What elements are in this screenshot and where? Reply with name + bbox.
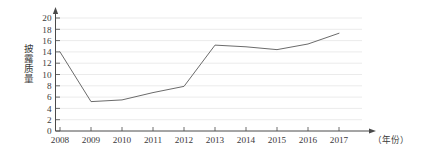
x-axis-tick-label: 2010 bbox=[113, 135, 132, 145]
y-axis-tick-label: 4 bbox=[47, 104, 52, 114]
y-axis-tick-label: 18 bbox=[42, 25, 52, 35]
x-axis-tick-label: 2012 bbox=[175, 135, 194, 145]
x-axis-tick-label: 2017 bbox=[330, 135, 349, 145]
gridlines bbox=[56, 18, 363, 120]
x-axis-tick-marks bbox=[60, 127, 339, 131]
x-axis-tick-label: 2008 bbox=[51, 135, 70, 145]
chart-axes bbox=[53, 7, 376, 134]
y-axis-tick-marks bbox=[56, 18, 61, 131]
y-axis-tick-label: 10 bbox=[42, 70, 52, 80]
x-axis-tick-label: 2015 bbox=[268, 135, 287, 145]
y-axis-tick-labels: 02468101214161820 bbox=[42, 13, 52, 136]
data-series-line bbox=[60, 33, 339, 101]
y-axis-tick-label: 12 bbox=[42, 58, 52, 68]
x-axis-tick-label: 2014 bbox=[237, 135, 256, 145]
y-axis-tick-label: 8 bbox=[47, 81, 52, 91]
x-axis-tick-label: 2009 bbox=[82, 135, 101, 145]
y-axis-tick-label: 14 bbox=[42, 47, 52, 57]
y-axis-title: 披露质量 bbox=[19, 44, 33, 84]
y-axis-tick-label: 16 bbox=[42, 36, 52, 46]
x-axis-tick-label: 2011 bbox=[144, 135, 162, 145]
y-axis-tick-label: 20 bbox=[42, 13, 52, 23]
x-axis-tick-label: 2013 bbox=[206, 135, 225, 145]
y-axis-tick-label: 2 bbox=[47, 115, 52, 125]
y-axis-tick-label: 6 bbox=[47, 92, 52, 102]
line-chart-figure: 02468101214161820 2008200920102011201220… bbox=[0, 0, 423, 156]
y-axis-arrow-head bbox=[53, 7, 58, 14]
x-axis-unit-label: （年份） bbox=[373, 134, 409, 145]
x-axis-tick-label: 2016 bbox=[299, 135, 318, 145]
x-axis-arrow-head bbox=[369, 128, 376, 133]
x-axis-tick-labels: 2008200920102011201220132014201520162017 bbox=[51, 135, 349, 145]
chart-canvas: 02468101214161820 2008200920102011201220… bbox=[0, 0, 423, 156]
